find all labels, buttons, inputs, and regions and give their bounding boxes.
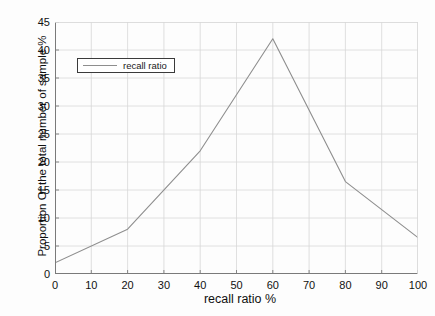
x-tick-label: 100 [409,279,427,291]
y-tick-label: 0 [44,268,50,280]
x-tick-label: 50 [230,279,242,291]
y-tick-label: 5 [44,240,50,252]
legend-line-swatch [83,65,117,66]
y-tick-label: 25 [38,128,50,140]
y-tick-label: 30 [38,100,50,112]
x-tick-label: 60 [267,279,279,291]
y-tick-label: 45 [38,16,50,28]
x-tick-label: 40 [194,279,206,291]
x-tick-label: 30 [158,279,170,291]
y-tick-label: 35 [38,72,50,84]
y-tick-label: 40 [38,44,50,56]
x-axis-title: recall ratio % [55,292,425,306]
legend-label-recall-ratio: recall ratio [123,60,167,71]
x-tick-label: 10 [85,279,97,291]
plot-area: 051015202530354045 010203040506070809010… [55,22,418,274]
chart-figure: Proportion Of the total number of sample… [0,0,435,316]
y-tick-label: 10 [38,212,50,224]
y-tick-label: 15 [38,184,50,196]
x-tick-label: 0 [52,279,58,291]
y-tick-label: 20 [38,156,50,168]
x-tick-label: 20 [121,279,133,291]
chart-legend[interactable]: recall ratio [77,58,175,73]
x-tick-label: 80 [339,279,351,291]
x-tick-label: 70 [303,279,315,291]
x-tick-label: 90 [376,279,388,291]
